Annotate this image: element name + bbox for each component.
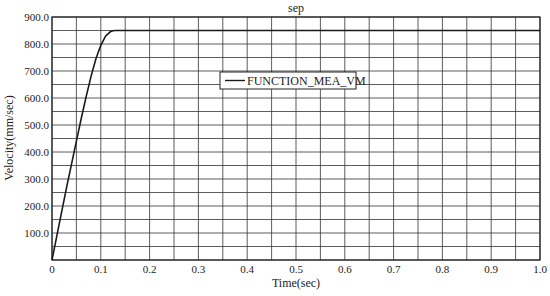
- x-tick-label: 0.2: [143, 263, 157, 275]
- y-axis-ticks: 100.0200.0300.0400.0500.0600.0700.0800.0…: [24, 11, 49, 239]
- y-tick-label: 200.0: [24, 200, 49, 212]
- y-tick-label: 100.0: [24, 227, 49, 239]
- legend-label: FUNCTION_MEA_VM: [247, 74, 366, 88]
- y-tick-label: 500.0: [24, 119, 49, 131]
- y-tick-label: 300.0: [24, 173, 49, 185]
- y-tick-label: 600.0: [24, 92, 49, 104]
- x-tick-label: 0.3: [192, 263, 206, 275]
- x-tick-label: 0.5: [289, 263, 303, 275]
- x-tick-label: 0.8: [436, 263, 450, 275]
- chart-title: sep: [288, 1, 304, 15]
- x-tick-label: 0: [49, 263, 55, 275]
- x-tick-label: 0.6: [338, 263, 352, 275]
- y-tick-label: 700.0: [24, 65, 49, 77]
- x-tick-label: 0.4: [240, 263, 254, 275]
- x-tick-label: 0.1: [94, 263, 108, 275]
- x-tick-label: 0.7: [387, 263, 401, 275]
- chart: 00.10.20.30.40.50.60.70.80.91.0 100.0200…: [0, 0, 550, 296]
- x-axis-ticks: 00.10.20.30.40.50.60.70.80.91.0: [49, 263, 547, 275]
- y-axis-label: Velocity(mm/sec): [2, 95, 16, 180]
- grid: [52, 17, 540, 260]
- chart-canvas: 00.10.20.30.40.50.60.70.80.91.0 100.0200…: [0, 0, 550, 296]
- x-axis-label: Time(sec): [272, 276, 320, 290]
- legend: FUNCTION_MEA_VM: [220, 72, 366, 89]
- y-tick-label: 400.0: [24, 146, 49, 158]
- y-tick-label: 800.0: [24, 38, 49, 50]
- y-tick-label: 900.0: [24, 11, 49, 23]
- x-tick-label: 0.9: [484, 263, 498, 275]
- x-tick-label: 1.0: [533, 263, 547, 275]
